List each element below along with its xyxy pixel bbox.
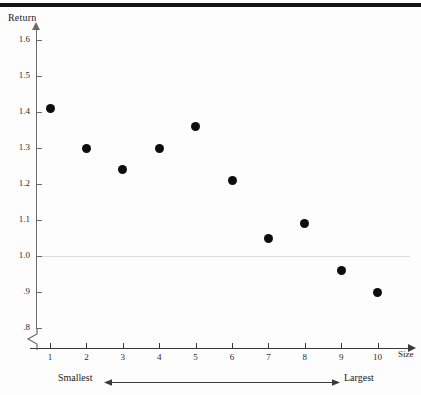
y-tick — [36, 40, 42, 41]
y-tick-label: 1.3 — [4, 142, 30, 152]
top-rule — [0, 3, 421, 7]
x-tick-label: 6 — [220, 352, 244, 362]
y-tick-label: 1.1 — [4, 214, 30, 224]
data-point — [228, 176, 237, 185]
data-point — [300, 219, 309, 228]
x-tick-label: 2 — [74, 352, 98, 362]
y-tick-label: 1.2 — [4, 178, 30, 188]
data-point — [118, 165, 127, 174]
data-point — [46, 104, 55, 113]
scatter-figure: Return Size 1.61.51.41.31.21.11.0.9.8 12… — [0, 0, 421, 395]
range-label-largest: Largest — [344, 372, 374, 383]
x-tick — [268, 343, 269, 349]
range-label-smallest: Smallest — [58, 372, 92, 383]
y-tick — [36, 292, 42, 293]
x-tick-label: 4 — [147, 352, 171, 362]
x-tick — [123, 343, 124, 349]
x-tick — [159, 343, 160, 349]
x-tick-label: 10 — [366, 352, 390, 362]
data-point — [82, 144, 91, 153]
y-tick — [36, 112, 42, 113]
data-point — [337, 266, 346, 275]
x-tick — [232, 343, 233, 349]
x-tick — [50, 343, 51, 349]
y-tick — [36, 256, 42, 257]
y-tick — [36, 328, 42, 329]
reference-line-1.0 — [36, 256, 410, 257]
size-range-annotation: Smallest Largest — [0, 372, 421, 390]
y-tick-label: 1.0 — [4, 250, 30, 260]
x-tick — [196, 343, 197, 349]
range-double-arrow-icon — [104, 378, 340, 387]
y-tick-label: .8 — [4, 322, 30, 332]
y-axis-line — [36, 28, 37, 328]
x-tick-label: 3 — [111, 352, 135, 362]
data-point — [155, 144, 164, 153]
x-tick-label: 7 — [256, 352, 280, 362]
y-tick-label: 1.5 — [4, 70, 30, 80]
x-tick-label: 1 — [38, 352, 62, 362]
data-point — [264, 234, 273, 243]
x-axis-arrow-icon — [408, 344, 416, 352]
y-tick-label: 1.6 — [4, 34, 30, 44]
y-tick — [36, 220, 42, 221]
x-tick — [305, 343, 306, 349]
y-tick — [36, 184, 42, 185]
y-tick — [36, 148, 42, 149]
data-point — [191, 122, 200, 131]
x-tick — [341, 343, 342, 349]
x-tick-label: 5 — [184, 352, 208, 362]
x-tick-label: 9 — [329, 352, 353, 362]
x-tick-label: 8 — [293, 352, 317, 362]
data-point — [373, 288, 382, 297]
y-tick — [36, 76, 42, 77]
y-tick-label: 1.4 — [4, 106, 30, 116]
x-tick — [86, 343, 87, 349]
x-tick — [378, 343, 379, 349]
y-tick-label: .9 — [4, 286, 30, 296]
